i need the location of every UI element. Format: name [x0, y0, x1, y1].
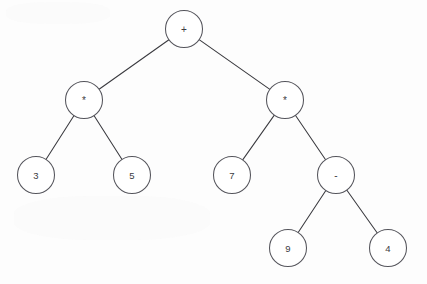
tree-edge-mulL-to-n3	[46, 116, 74, 160]
tree-node-root[interactable]: +	[166, 11, 203, 48]
tree-edge-mulR-to-sub	[295, 115, 325, 159]
node-label-sub: -	[334, 170, 337, 181]
tree-node-n9[interactable]: 9	[270, 230, 307, 267]
node-label-n9: 9	[285, 243, 290, 254]
tree-node-mulL[interactable]: *	[66, 82, 103, 119]
tree-edge-sub-to-n9	[298, 190, 326, 232]
node-label-mulR: *	[283, 95, 287, 106]
tree-edge-root-to-mulR	[199, 40, 270, 90]
tree-edge-sub-to-n4	[347, 190, 378, 233]
node-label-root: +	[181, 24, 187, 35]
tree-node-n3[interactable]: 3	[18, 157, 55, 194]
diagram-canvas: +**357-94	[0, 0, 427, 284]
tree-node-n5[interactable]: 5	[114, 157, 151, 194]
node-label-n3: 3	[33, 170, 38, 181]
tree-node-mulR[interactable]: *	[267, 82, 304, 119]
tree-edge-mulL-to-n5	[94, 116, 122, 160]
node-label-mulL: *	[82, 95, 86, 106]
tree-node-sub[interactable]: -	[318, 157, 355, 194]
tree-node-n7[interactable]: 7	[214, 157, 251, 194]
expression-tree: +**357-94	[0, 0, 427, 284]
node-label-n4: 4	[385, 243, 390, 254]
tree-edge-mulR-to-n7	[243, 115, 275, 160]
edge-layer	[46, 40, 377, 233]
node-label-n7: 7	[229, 170, 234, 181]
tree-edge-root-to-mulL	[99, 40, 169, 90]
node-label-n5: 5	[129, 170, 134, 181]
tree-node-n4[interactable]: 4	[370, 230, 407, 267]
